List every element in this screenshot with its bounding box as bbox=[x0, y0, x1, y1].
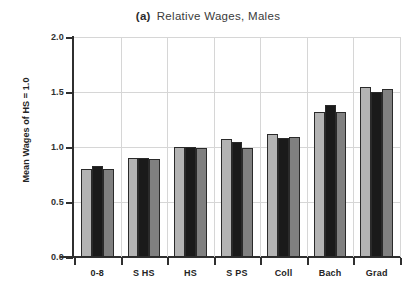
gridline-vertical bbox=[260, 37, 261, 257]
x-tick-label: 0-8 bbox=[74, 268, 121, 278]
gridline-horizontal bbox=[74, 37, 400, 38]
bar bbox=[103, 169, 114, 257]
bar bbox=[196, 148, 207, 257]
x-tick-mark bbox=[74, 258, 76, 265]
x-tick-label: HS bbox=[167, 268, 214, 278]
x-tick-mark bbox=[353, 258, 355, 265]
y-tick-mark bbox=[66, 37, 73, 39]
chart-title-text: Relative Wages, Males bbox=[157, 10, 280, 22]
bar bbox=[336, 112, 347, 257]
y-tick-mark bbox=[66, 257, 73, 259]
x-tick-mark bbox=[167, 258, 169, 265]
gridline-horizontal bbox=[74, 92, 400, 93]
x-tick-mark bbox=[260, 258, 262, 265]
gridline-vertical bbox=[167, 37, 168, 257]
bar bbox=[149, 159, 160, 257]
bar bbox=[242, 148, 253, 257]
bar bbox=[371, 92, 382, 257]
bar bbox=[267, 134, 278, 257]
bar bbox=[221, 139, 232, 257]
bar bbox=[185, 147, 196, 257]
x-tick-mark bbox=[307, 258, 309, 265]
y-tick-mark bbox=[66, 147, 73, 149]
x-tick-label: S PS bbox=[214, 268, 261, 278]
y-axis-title: Mean Wages of HS = 1.0 bbox=[21, 50, 31, 210]
bar bbox=[174, 147, 185, 257]
x-tick-mark bbox=[121, 258, 123, 265]
gridline-vertical bbox=[400, 37, 401, 257]
gridline-vertical bbox=[307, 37, 308, 257]
y-tick-label: 1.0 bbox=[51, 143, 64, 152]
chart-figure: (a)Relative Wages, Males Mean Wages of H… bbox=[0, 0, 416, 293]
bar bbox=[382, 89, 393, 257]
bar bbox=[360, 87, 371, 258]
bar bbox=[138, 158, 149, 257]
x-tick-mark bbox=[214, 258, 216, 265]
bar bbox=[81, 169, 92, 257]
chart-title: (a)Relative Wages, Males bbox=[0, 10, 416, 22]
gridline-vertical bbox=[353, 37, 354, 257]
bar bbox=[92, 166, 103, 257]
x-tick-mark bbox=[400, 258, 402, 265]
x-tick-label: Grad bbox=[353, 268, 400, 278]
x-tick-label: Coll bbox=[260, 268, 307, 278]
bar bbox=[278, 138, 289, 257]
x-tick-label: Bach bbox=[307, 268, 354, 278]
y-tick-mark bbox=[66, 92, 73, 94]
y-tick-label: 2.0 bbox=[51, 33, 64, 42]
gridline-vertical bbox=[214, 37, 215, 257]
y-tick-label: 1.5 bbox=[51, 88, 64, 97]
bar bbox=[314, 112, 325, 257]
bar bbox=[289, 137, 300, 257]
y-tick-label: 0.0 bbox=[51, 253, 64, 262]
y-tick-label: 0.5 bbox=[51, 198, 64, 207]
bar bbox=[128, 158, 139, 257]
y-tick-mark bbox=[66, 202, 73, 204]
bar bbox=[325, 105, 336, 257]
plot-area bbox=[74, 37, 400, 257]
x-tick-label: S HS bbox=[121, 268, 168, 278]
bar bbox=[232, 142, 243, 258]
panel-letter: (a) bbox=[136, 10, 151, 22]
gridline-vertical bbox=[121, 37, 122, 257]
